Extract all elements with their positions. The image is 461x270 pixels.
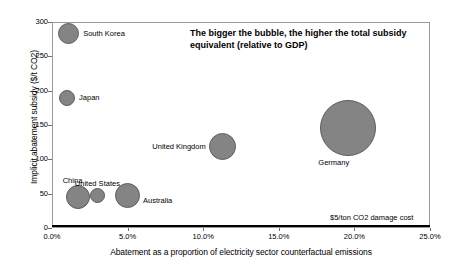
- x-axis-tick-mark: [354, 228, 355, 231]
- x-axis-tick-label: 0.0%: [32, 233, 72, 241]
- x-axis-tick-label: 25.0%: [410, 233, 450, 241]
- y-axis-tick-label: 150: [26, 121, 48, 129]
- bubble-united-states[interactable]: [90, 188, 105, 203]
- x-axis-tick-mark: [430, 228, 431, 231]
- chart-annotation-line1: The bigger the bubble, the higher the to…: [190, 28, 407, 40]
- bubble-label-united-states: United States: [75, 179, 120, 188]
- bubble-japan[interactable]: [59, 90, 75, 106]
- y-axis-tick-mark: [48, 228, 52, 229]
- y-axis-tick-label: 0: [26, 224, 48, 232]
- chart-annotation-line2: equivalent (relative to GDP): [190, 40, 407, 52]
- y-axis-tick-label: 200: [26, 87, 48, 95]
- y-axis-tick-label: 50: [26, 190, 48, 198]
- bubble-label-south-korea: South Korea: [83, 29, 125, 38]
- x-axis-tick-label: 20.0%: [334, 233, 374, 241]
- x-axis-tick-label: 15.0%: [259, 233, 299, 241]
- bubble-australia[interactable]: [115, 183, 140, 208]
- x-axis-title: Abatement as a proportion of electricity…: [52, 247, 430, 257]
- bubble-label-japan: Japan: [79, 93, 99, 102]
- y-axis-tick-label: 300: [26, 18, 48, 26]
- bubble-label-australia: Australia: [143, 196, 172, 205]
- x-axis-tick-label: 5.0%: [108, 233, 148, 241]
- damage-cost-reference-line: [52, 225, 430, 227]
- x-axis-tick-mark: [203, 228, 204, 231]
- bubble-label-germany: Germany: [318, 158, 349, 167]
- x-axis-tick-label: 10.0%: [183, 233, 223, 241]
- y-axis-tick-label: 250: [26, 52, 48, 60]
- damage-cost-label: $5/ton CO2 damage cost: [330, 213, 413, 222]
- x-axis-tick-mark: [279, 228, 280, 231]
- chart-annotation: The bigger the bubble, the higher the to…: [190, 28, 407, 51]
- bubble-china[interactable]: [66, 185, 90, 209]
- bubble-chart: Implicit abatement subsidy ($/t CO2) 050…: [0, 0, 461, 270]
- x-axis-tick-mark: [128, 228, 129, 231]
- y-axis-tick-label: 100: [26, 155, 48, 163]
- bubble-label-united-kingdom: United Kingdom: [152, 142, 205, 151]
